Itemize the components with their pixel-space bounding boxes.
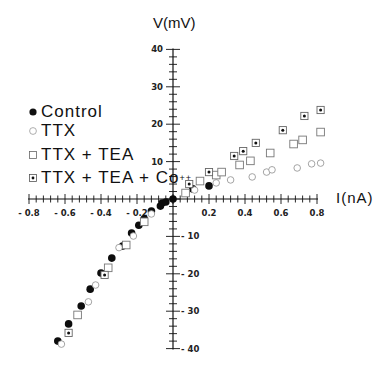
- open-circle-icon: [28, 126, 38, 136]
- x-tick-label: 0.6: [273, 208, 288, 218]
- legend-item-ttx-tea: TTX + TEA: [28, 145, 134, 165]
- ttx-tea-co-point-dot: [254, 141, 257, 144]
- ttx-point: [130, 233, 137, 240]
- x-tick-label: - 0.4: [90, 208, 112, 218]
- y-axis-label: V(mV): [153, 14, 196, 31]
- ttx-tea-point: [104, 264, 112, 272]
- legend-item-control: Control: [28, 102, 103, 122]
- ttx-tea-co-point-dot: [67, 331, 70, 334]
- ttx-point: [85, 299, 92, 306]
- ttx-tea-point: [317, 128, 325, 136]
- ttx-point: [227, 177, 234, 184]
- legend-label: TTX + TEA: [41, 145, 134, 165]
- y-tick-label: - 40: [181, 344, 199, 354]
- x-tick-label: 0.4: [237, 208, 252, 218]
- control-point: [65, 320, 73, 328]
- ttx-tea-point: [266, 149, 274, 157]
- ttx-point: [213, 180, 220, 187]
- control-point: [169, 195, 177, 203]
- ttx-tea-point: [247, 157, 255, 165]
- ttx-point: [148, 211, 155, 218]
- ttx-tea-co-point-dot: [281, 129, 284, 132]
- legend-label: TTX: [41, 121, 76, 141]
- y-tick-label: 40: [151, 44, 163, 54]
- open-square-icon: [28, 150, 38, 160]
- ttx-tea-point: [299, 136, 307, 144]
- y-tick-label: 30: [151, 82, 163, 92]
- ttx-point: [58, 341, 65, 348]
- legend-label: Control: [41, 102, 103, 122]
- legend-item-ttx-tea-co: TTX + TEA + Co++: [28, 168, 192, 188]
- ttx-point: [308, 161, 315, 168]
- ttx-point: [92, 282, 99, 289]
- x-tick-label: 0.8: [309, 208, 324, 218]
- dotted-square-icon: [28, 173, 38, 183]
- ttx-tea-point: [218, 168, 226, 176]
- control-point: [108, 254, 116, 262]
- ttx-tea-point: [140, 218, 148, 226]
- ttx-point: [294, 165, 301, 172]
- x-tick-label: 0.2: [201, 208, 216, 218]
- x-tick-label: - 0.8: [18, 208, 40, 218]
- ttx-tea-co-point-dot: [303, 114, 306, 117]
- legend-superscript: ++: [179, 173, 192, 183]
- ttx-tea-co-point-dot: [233, 154, 236, 157]
- filled-circle-icon: [28, 107, 38, 117]
- control-point: [162, 198, 170, 206]
- ttx-tea-point: [290, 140, 298, 148]
- legend-item-ttx: TTX: [28, 121, 76, 141]
- ttx-tea-point: [196, 177, 204, 185]
- y-tick-label: - 10: [181, 231, 199, 241]
- ttx-point: [249, 174, 256, 181]
- y-tick-label: 10: [151, 157, 163, 167]
- control-point: [205, 182, 213, 190]
- y-tick-label: - 20: [181, 269, 199, 279]
- ttx-point: [116, 244, 123, 251]
- x-axis-label: I(nA): [336, 189, 374, 206]
- ttx-point: [317, 160, 324, 167]
- y-tick-label: 20: [151, 119, 163, 129]
- ttx-tea-point: [122, 241, 130, 249]
- ttx-tea-co-point-dot: [319, 108, 322, 111]
- control-point: [77, 302, 85, 310]
- ttx-tea-co-point-dot: [242, 150, 245, 153]
- ttx-tea-point: [236, 161, 244, 169]
- ttx-tea-point: [182, 189, 190, 197]
- legend-label: TTX + TEA + Co: [41, 168, 179, 188]
- ttx-tea-co-point-dot: [208, 171, 211, 174]
- y-tick-label: - 30: [181, 306, 199, 316]
- ttx-tea-co-point-dot: [103, 273, 106, 276]
- x-tick-label: - 0.6: [54, 208, 76, 218]
- ttx-point: [269, 167, 276, 174]
- ttx-tea-point: [74, 311, 82, 319]
